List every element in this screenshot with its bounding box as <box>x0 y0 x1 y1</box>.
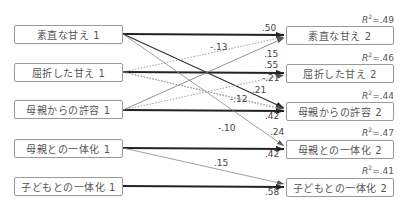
node-label: 素直な甘え 2 <box>308 28 371 43</box>
r2-label-5: R2=.41 <box>334 164 394 176</box>
node-label: 母親からの許容 2 <box>298 104 382 119</box>
path-L5-R5 <box>123 186 284 187</box>
path-L2-R1 <box>123 37 284 72</box>
coef-L1-R1: .50 <box>262 23 276 33</box>
node-right-1: 素直な甘え 2 <box>286 26 394 45</box>
node-label: 子どもとの一体化 2 <box>293 180 388 195</box>
node-label: 母親との一体化 1 <box>26 141 110 156</box>
node-right-4: 母親との一体化 2 <box>286 140 394 159</box>
node-label: 屈折した甘え 2 <box>303 66 377 81</box>
path-L4-R5 <box>123 148 284 184</box>
r2-label-1: R2=.49 <box>334 13 394 25</box>
node-label: 素直な甘え 1 <box>37 27 100 42</box>
node-label: 屈折した甘え 1 <box>32 65 106 80</box>
node-left-3: 母親からの許容 1 <box>14 100 123 119</box>
node-left-2: 屈折した甘え 1 <box>14 63 123 82</box>
r2-label-4: R2=.47 <box>334 126 394 138</box>
node-left-1: 素直な甘え 1 <box>14 25 123 44</box>
path-L1-R3 <box>123 34 284 108</box>
coef-L2-R1: -.13 <box>210 42 228 52</box>
coef-L1-R3: .21 <box>252 85 266 95</box>
path-L2-R2 <box>123 72 284 73</box>
coef-L3-R2: -.21 <box>262 73 280 83</box>
node-left-5: 子どもとの一体化 1 <box>14 177 123 196</box>
coef-L2-R4: -.10 <box>218 123 236 133</box>
path-L3-R3 <box>123 110 284 111</box>
node-left-4: 母親との一体化 1 <box>14 139 123 158</box>
node-right-2: 屈折した甘え 2 <box>286 64 394 83</box>
coef-L1-R4: .24 <box>270 127 284 137</box>
coef-L4-R5: .15 <box>214 158 228 168</box>
coef-L3-R1: .15 <box>264 49 278 59</box>
coef-L5-R5: .58 <box>265 187 279 197</box>
node-right-3: 母親からの許容 2 <box>286 102 394 121</box>
node-label: 母親との一体化 2 <box>298 142 382 157</box>
coef-L4-R4: .42 <box>265 149 279 159</box>
path-L4-R4 <box>123 148 284 149</box>
path-L3-R1 <box>123 38 284 110</box>
node-label: 母親からの許容 1 <box>26 102 110 117</box>
coef-L3-R3: .42 <box>265 111 279 121</box>
node-label: 子どもとの一体化 1 <box>21 179 116 194</box>
coef-L2-R3: -.12 <box>230 94 248 104</box>
node-right-5: 子どもとの一体化 2 <box>286 178 394 197</box>
path-L1-R1 <box>123 34 284 35</box>
r2-label-2: R2=.46 <box>334 51 394 63</box>
coef-L2-R2: .55 <box>264 60 278 70</box>
r2-label-3: R2=.44 <box>334 89 394 101</box>
